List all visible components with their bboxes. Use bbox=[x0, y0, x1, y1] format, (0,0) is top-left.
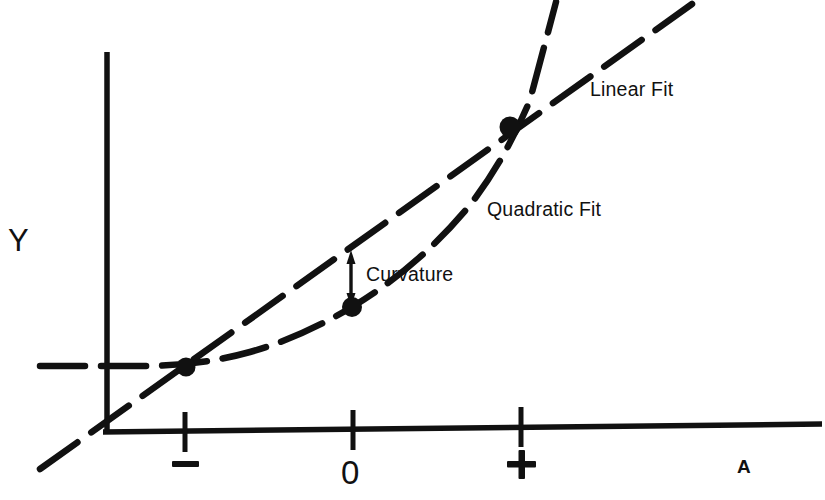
x-tick-label-zero: 0 bbox=[341, 454, 359, 491]
x-axis-line bbox=[103, 424, 822, 432]
y-axis-label: Y bbox=[8, 223, 29, 258]
data-point-high[interactable] bbox=[500, 117, 521, 138]
linear-fit-label: Linear Fit bbox=[590, 78, 674, 100]
x-tick-label-plus bbox=[507, 450, 536, 479]
curvature-label: Curvature bbox=[366, 263, 453, 285]
plus-glyph-vertical bbox=[519, 450, 526, 479]
x-tick-label-minus bbox=[172, 461, 199, 467]
figure-canvas: Linear Fit Quadratic Fit Curvature Y A 0 bbox=[0, 0, 825, 500]
quadratic-fit-label: Quadratic Fit bbox=[487, 198, 602, 220]
chart-svg: Linear Fit Quadratic Fit Curvature Y A 0 bbox=[0, 0, 825, 500]
data-point-low[interactable] bbox=[177, 358, 196, 377]
linear-fit-line bbox=[40, 4, 692, 469]
x-axis-label: A bbox=[737, 456, 751, 477]
minus-glyph bbox=[172, 461, 199, 467]
axes-group bbox=[103, 52, 822, 434]
data-point-center[interactable] bbox=[342, 297, 362, 317]
quadratic-fit-curve bbox=[40, 2, 556, 366]
